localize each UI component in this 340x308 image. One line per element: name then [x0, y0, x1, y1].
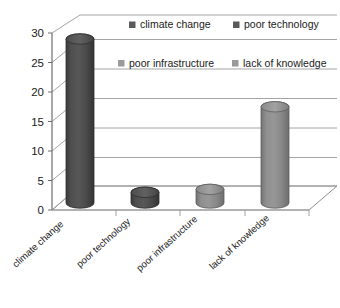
y-tick-25: 25	[31, 57, 44, 69]
y-tick-30: 30	[31, 27, 44, 39]
y-axis-tick-labels: 0 5 10 15 20 25 30	[31, 27, 44, 216]
x-label-poor-infrastructure: poor infrastructure	[134, 213, 199, 273]
x-label-poor-technology: poor technology	[74, 215, 132, 269]
legend-label-poor-infrastructure: poor infrastructure	[129, 57, 214, 69]
x-label-lack-of-knowledge: lack of knowledge	[207, 212, 271, 271]
bar-lack-of-knowledge[interactable]	[261, 102, 289, 209]
x-axis-ticks	[52, 210, 309, 216]
gridlines	[80, 15, 337, 186]
y-tick-20: 20	[31, 86, 44, 98]
y-tick-10: 10	[31, 145, 44, 157]
legend-swatch-icon	[233, 22, 240, 29]
legend-swatch-icon	[118, 60, 125, 67]
legend-swatch-icon	[232, 60, 239, 67]
x-label-climate-change: climate change	[10, 218, 65, 269]
legend-item-lack-of-knowledge[interactable]: lack of knowledge	[232, 57, 327, 69]
y-tick-5: 5	[38, 175, 44, 187]
plot-floor	[52, 186, 337, 210]
legend-label-climate-change: climate change	[140, 18, 211, 30]
y-axis	[48, 33, 52, 210]
y-tick-15: 15	[31, 116, 44, 128]
chart-legend: climate change poor technology poor infr…	[118, 18, 327, 69]
bar-climate-change[interactable]	[66, 34, 94, 208]
legend-item-climate-change[interactable]: climate change	[129, 18, 211, 30]
bar-poor-infrastructure[interactable]	[196, 184, 224, 208]
x-axis-category-labels: climate change poor technology poor infr…	[10, 212, 271, 273]
y-tick-0: 0	[38, 204, 44, 216]
legend-item-poor-infrastructure[interactable]: poor infrastructure	[118, 57, 214, 69]
legend-item-poor-technology[interactable]: poor technology	[233, 18, 319, 30]
bar-poor-technology[interactable]	[131, 187, 159, 208]
bar-chart-3d: 0 5 10 15 20 25 30	[0, 0, 340, 308]
legend-label-lack-of-knowledge: lack of knowledge	[243, 57, 327, 69]
chart-container: 0 5 10 15 20 25 30	[0, 0, 340, 308]
legend-swatch-icon	[129, 22, 136, 29]
legend-label-poor-technology: poor technology	[244, 18, 319, 30]
